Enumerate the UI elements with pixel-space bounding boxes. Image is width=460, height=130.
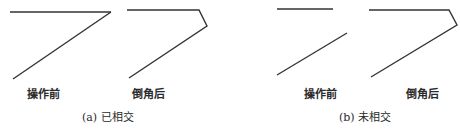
panel-a-chamfered-polyline [127, 10, 207, 78]
panel-a-after-label: 倒角后 [132, 89, 165, 101]
panel-a-diagonal-line [13, 12, 111, 79]
panel-a-caption: (a) 已相交 [82, 112, 134, 124]
panel-b-caption: (b) 未相交 [339, 112, 391, 124]
chamfer-diagram [0, 0, 460, 130]
panel-b-after-label: 倒角后 [406, 89, 439, 101]
panel-b-chamfered-polyline [369, 10, 457, 77]
panel-b-before-label: 操作前 [304, 89, 337, 101]
panel-a-before-lines [10, 12, 111, 79]
panel-b-diagonal-line [277, 33, 347, 75]
panel-a-before-label: 操作前 [27, 89, 60, 101]
panel-b-before-lines [277, 9, 347, 75]
